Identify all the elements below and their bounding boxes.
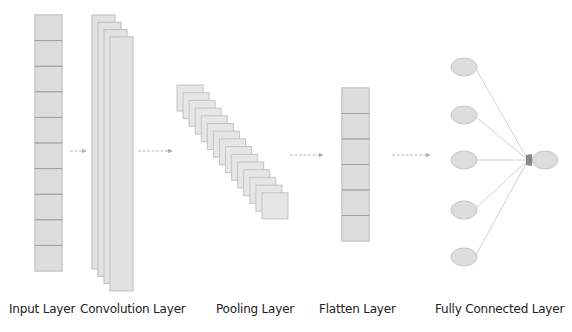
cell bbox=[342, 190, 369, 216]
label-flatten-layer: Flatten Layer bbox=[319, 302, 396, 316]
feature-map-sheet bbox=[110, 37, 133, 291]
cnn-diagram bbox=[0, 0, 572, 332]
input-layer bbox=[35, 15, 62, 271]
cell bbox=[35, 220, 62, 246]
fully-connected-layer bbox=[451, 58, 558, 266]
cell bbox=[35, 66, 62, 92]
input-neuron bbox=[451, 58, 477, 76]
input-neuron bbox=[451, 106, 477, 124]
cell bbox=[35, 169, 62, 195]
cell bbox=[342, 88, 369, 114]
convolution-layer bbox=[92, 15, 133, 291]
input-neuron bbox=[451, 248, 477, 266]
label-input-layer: Input Layer bbox=[9, 302, 75, 316]
input-neuron bbox=[451, 151, 477, 169]
label-convolution-layer: Convolution Layer bbox=[80, 302, 186, 316]
cell bbox=[342, 216, 369, 242]
flatten-layer bbox=[342, 88, 369, 241]
cell bbox=[35, 92, 62, 118]
connection-edge bbox=[476, 117, 528, 160]
cell bbox=[342, 165, 369, 191]
arrowhead-icon bbox=[526, 154, 532, 166]
label-pooling-layer: Pooling Layer bbox=[216, 302, 294, 316]
connection-edge bbox=[476, 160, 528, 208]
output-neuron bbox=[532, 151, 558, 169]
cell bbox=[35, 194, 62, 220]
connection-edge bbox=[476, 160, 528, 255]
cell bbox=[35, 15, 62, 41]
input-neuron bbox=[451, 201, 477, 219]
cell bbox=[342, 114, 369, 140]
cell bbox=[35, 117, 62, 143]
connection-edge bbox=[476, 69, 528, 160]
cell bbox=[35, 143, 62, 169]
cell bbox=[35, 41, 62, 67]
label-fully-connected-layer: Fully Connected Layer bbox=[435, 302, 564, 316]
cell bbox=[35, 245, 62, 271]
pooling-layer bbox=[177, 85, 288, 219]
cell bbox=[342, 139, 369, 165]
pooled-map-square bbox=[262, 193, 288, 219]
